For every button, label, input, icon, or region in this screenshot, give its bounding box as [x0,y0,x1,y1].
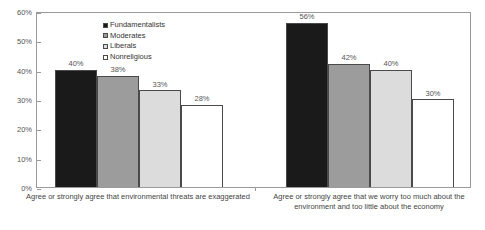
plot-area: 0%10%20%30%40%50%60% 40%38%33%28%56%42%4… [36,12,471,188]
legend-label: Liberals [110,42,136,51]
category-label-line: Agree or strongly agree that we worry to… [252,192,485,202]
x-axis-category-label: Agree or strongly agree that we worry to… [252,192,485,212]
y-axis-tick-mark [37,189,41,190]
bar-fundamentalists: 40% [55,13,97,187]
bar-rect [139,90,181,187]
bar-value-label: 30% [412,90,454,98]
legend-label: Nonreligious [110,53,152,62]
bar-rect [370,70,412,187]
category-label-line: Agree or strongly agree that environment… [21,192,256,202]
bar-rect [181,105,223,187]
bar-rect [55,70,97,187]
legend-swatch-icon [103,55,108,60]
chart-legend: FundamentalistsModeratesLiberalsNonrelig… [103,21,165,62]
y-axis-tick-label: 10% [17,156,32,164]
legend-swatch-icon [103,23,108,28]
y-axis-tick-label: 60% [17,9,32,17]
y-axis-tick-label: 20% [17,127,32,135]
y-axis-tick-label: 50% [17,39,32,47]
bar-value-label: 38% [97,66,139,74]
bar-liberals: 40% [370,13,412,187]
bar-rect [412,99,454,187]
x-axis-category-label: Agree or strongly agree that environment… [21,192,256,202]
bar-moderates: 42% [328,13,370,187]
bar-rect [328,64,370,187]
bar-value-label: 40% [370,60,412,68]
legend-item-moderates: Moderates [103,32,165,41]
x-axis-group-separator-tick [255,187,256,191]
category-label-line: environment and too little about the eco… [252,202,485,212]
legend-item-liberals: Liberals [103,42,165,51]
legend-label: Fundamentalists [110,21,165,30]
y-axis-tick-label: 30% [17,97,32,105]
legend-label: Moderates [110,32,145,41]
bar-value-label: 28% [181,95,223,103]
legend-item-nonreligious: Nonreligious [103,53,165,62]
bar-group: 56%42%40%30% [286,13,454,187]
bar-value-label: 40% [55,60,97,68]
bar-value-label: 56% [286,13,328,21]
bars-layer: 40%38%33%28%56%42%40%30% [37,13,470,187]
y-axis-tick-label: 40% [17,68,32,76]
bar-rect [286,23,328,187]
bar-nonreligious: 28% [181,13,223,187]
bar-value-label: 42% [328,54,370,62]
legend-swatch-icon [103,33,108,38]
bar-rect [97,76,139,187]
legend-item-fundamentalists: Fundamentalists [103,21,165,30]
bar-nonreligious: 30% [412,13,454,187]
bar-value-label: 33% [139,81,181,89]
bar-chart: 0%10%20%30%40%50%60% 40%38%33%28%56%42%4… [0,0,485,230]
bar-fundamentalists: 56% [286,13,328,187]
legend-swatch-icon [103,44,108,49]
